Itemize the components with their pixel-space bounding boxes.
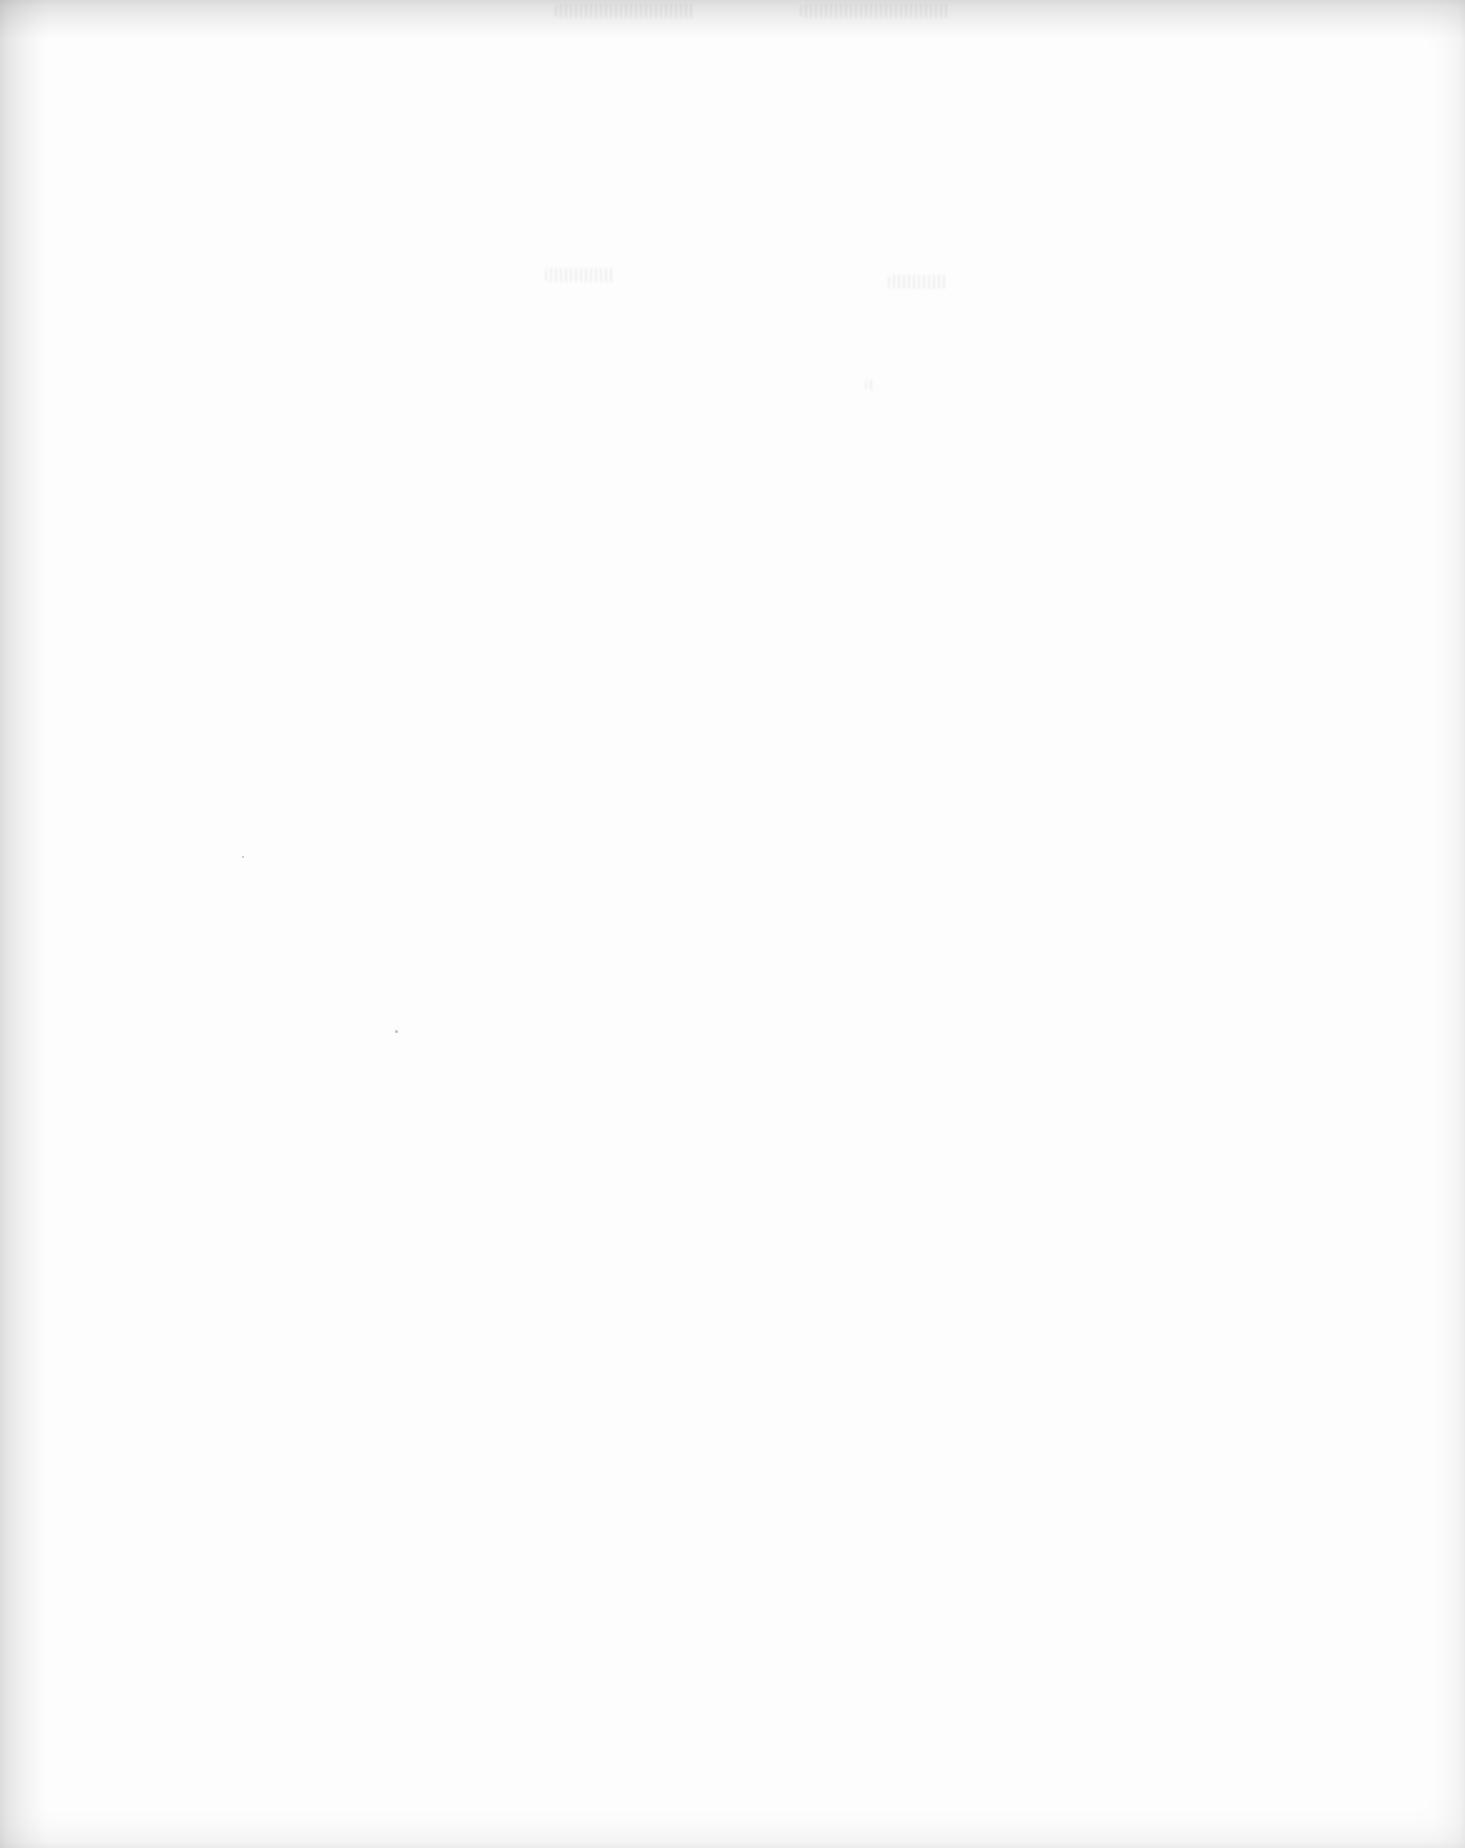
bleed-through-mark bbox=[888, 275, 948, 289]
bleed-through-mark bbox=[555, 4, 695, 18]
bleed-through-mark bbox=[545, 268, 615, 282]
dust-speck bbox=[242, 856, 244, 858]
dust-speck bbox=[395, 1030, 398, 1033]
scan-left-edge-shadow bbox=[0, 0, 48, 1848]
bleed-through-mark bbox=[800, 4, 950, 18]
bleed-through-mark bbox=[865, 380, 875, 390]
scan-top-edge-shadow bbox=[0, 0, 1465, 40]
blank-page bbox=[0, 0, 1465, 1848]
